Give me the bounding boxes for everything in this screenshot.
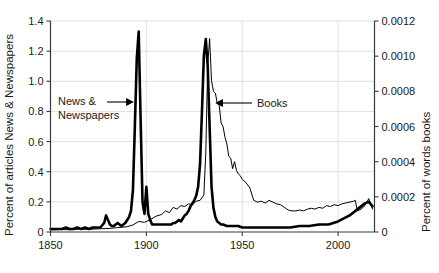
left-tick-label: 1.2 (28, 45, 43, 57)
chart-annotations: News &NewspapersBooks (58, 95, 288, 121)
right-axis-title: Percent of words books (420, 112, 432, 232)
right-tick-label: 0.0002 (382, 191, 416, 203)
left-axis-title: Percent of articles News & Newspapers (3, 34, 15, 236)
chart-container: 00.20.40.60.81.01.21.400.00020.00040.000… (0, 0, 439, 273)
left-tick-label: 0.8 (28, 105, 43, 117)
left-tick-label: 0.4 (28, 166, 43, 178)
left-tick-label: 0 (37, 226, 43, 238)
left-tick-label: 1.0 (28, 75, 43, 87)
right-tick-label: 0.0006 (382, 121, 416, 133)
x-tick-label: 1850 (38, 239, 62, 251)
series-group (51, 32, 373, 230)
series-line-news-newspapers (51, 32, 373, 229)
line-chart-figure: 00.20.40.60.81.01.21.400.00020.00040.000… (0, 0, 439, 273)
right-tick-label: 0.0012 (382, 15, 416, 27)
right-tick-label: 0.0010 (382, 50, 416, 62)
right-tick-label: 0 (382, 226, 388, 238)
axis-tick-labels: 00.20.40.60.81.01.21.400.00020.00040.000… (28, 15, 415, 251)
x-tick-label: 2000 (326, 239, 350, 251)
x-tick-label: 1950 (230, 239, 254, 251)
annotation-news-line1: News & (58, 95, 97, 107)
right-tick-label: 0.0004 (382, 156, 416, 168)
annotation-books-label: Books (257, 97, 288, 109)
annotation-news-arrowhead (127, 99, 133, 105)
series-line-books (51, 39, 373, 230)
right-tick-label: 0.0008 (382, 85, 416, 97)
annotation-news-line2: Newspapers (58, 109, 120, 121)
left-tick-label: 0.2 (28, 196, 43, 208)
x-tick-label: 1900 (134, 239, 158, 251)
left-tick-label: 1.4 (28, 15, 43, 27)
left-tick-label: 0.6 (28, 136, 43, 148)
